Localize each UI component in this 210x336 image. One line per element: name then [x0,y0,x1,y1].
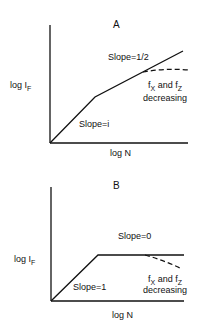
panel-b-dashed-label-line2: decreasing [143,285,187,295]
panel-a-slope1-label: Slope=i [79,119,109,129]
panel-b: B log IF log N Slope=1 Slope=0 fX and fZ… [14,180,187,320]
panel-b-slope1-label: Slope=1 [73,282,106,292]
diagram-canvas: A log IF log N Slope=i Slope=1/2 fX and … [0,0,210,336]
panel-b-title: B [113,180,120,191]
panel-a-dashed-curve [143,69,190,72]
panel-a-dashed-label-line2: decreasing [143,93,187,103]
panel-a: A log IF log N Slope=i Slope=1/2 fX and … [10,19,190,158]
panel-a-y-label: log IF [10,80,31,92]
panel-b-x-label: log N [112,310,133,320]
panel-b-slope2-label: Slope=0 [118,231,151,241]
panel-a-slope2-label: Slope=1/2 [108,52,149,62]
panel-b-y-label: log IF [14,254,35,266]
panel-a-dashed-label-line1: fX and fZ [148,80,183,92]
panel-a-x-label: log N [110,148,131,158]
panel-b-dashed-curve [145,255,180,268]
panel-a-title: A [113,19,120,30]
